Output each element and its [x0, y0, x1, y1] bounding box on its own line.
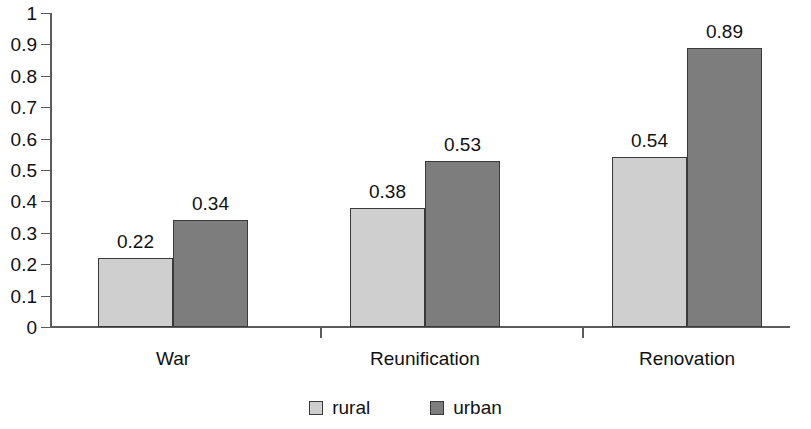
y-axis-tick-label: 0.4 [11, 192, 37, 211]
y-axis-tick-mark [41, 170, 50, 171]
legend-swatch-icon [430, 401, 444, 415]
y-axis-tick-mark [41, 264, 50, 265]
y-axis-tick-mark [41, 327, 50, 328]
y-axis-tick-mark [41, 296, 50, 297]
bar-chart: 0.220.380.540.340.530.89 10.90.80.70.60.… [0, 0, 811, 429]
chart-legend: ruralurban [0, 398, 811, 417]
legend-item-urban: urban [430, 398, 502, 417]
bar-urban-reunification [425, 161, 500, 327]
bar-urban-war [173, 220, 248, 327]
y-axis-tick-label: 0.1 [11, 286, 37, 305]
y-axis-tick-label: 0.9 [11, 35, 37, 54]
x-axis-category-label-reunification: Reunification [370, 349, 480, 368]
y-axis-tick-mark [41, 233, 50, 234]
bar-urban-renovation [687, 48, 762, 327]
x-axis-category-label-renovation: Renovation [639, 349, 735, 368]
bar-value-label: 0.53 [444, 135, 481, 154]
x-axis-separator-tick [582, 328, 584, 338]
plot-area: 0.220.380.540.340.530.89 [50, 13, 790, 327]
bar-value-label: 0.34 [192, 194, 229, 213]
bar-rural-renovation [612, 157, 687, 327]
y-axis-tick-label: 0 [26, 318, 37, 337]
x-axis-separator-tick [320, 328, 322, 338]
legend-label: urban [453, 398, 502, 417]
bar-rural-war [98, 258, 173, 327]
y-axis-tick-mark [41, 44, 50, 45]
legend-swatch-icon [309, 401, 323, 415]
y-axis-tick-label: 1 [26, 4, 37, 23]
y-axis-tick-mark [41, 201, 50, 202]
bar-value-label: 0.54 [631, 131, 668, 150]
y-axis-tick-mark [41, 139, 50, 140]
y-axis-tick-mark [41, 13, 50, 14]
bar-value-label: 0.22 [117, 232, 154, 251]
y-axis-tick-label: 0.7 [11, 98, 37, 117]
y-axis-tick-label: 0.8 [11, 66, 37, 85]
y-axis-tick-mark [41, 76, 50, 77]
y-axis-tick-label: 0.6 [11, 129, 37, 148]
bar-value-label: 0.38 [369, 182, 406, 201]
bar-rural-reunification [350, 208, 425, 327]
x-axis-category-label-war: War [156, 349, 190, 368]
y-axis-tick-mark [41, 107, 50, 108]
legend-item-rural: rural [309, 398, 370, 417]
y-axis-tick-label: 0.5 [11, 161, 37, 180]
y-axis-tick-label: 0.2 [11, 255, 37, 274]
legend-label: rural [332, 398, 370, 417]
bar-value-label: 0.89 [706, 22, 743, 41]
y-axis-tick-label: 0.3 [11, 223, 37, 242]
